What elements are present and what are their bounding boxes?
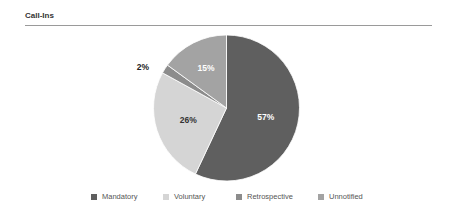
pie-chart: 57%26%2%15% — [0, 0, 450, 214]
legend: Mandatory Voluntary Retrospective Unnoti… — [0, 192, 450, 206]
legend-item-voluntary: Voluntary — [163, 192, 205, 201]
slice-label: 2% — [137, 62, 150, 72]
legend-swatch — [236, 194, 242, 200]
legend-label: Unnotified — [329, 192, 363, 201]
slice-label: 15% — [197, 63, 214, 73]
legend-swatch — [163, 194, 169, 200]
legend-item-unnotified: Unnotified — [318, 192, 363, 201]
legend-label: Voluntary — [174, 192, 205, 201]
legend-swatch — [318, 194, 324, 200]
slice-label: 57% — [257, 112, 274, 122]
slice-label: 26% — [180, 115, 197, 125]
legend-label: Retrospective — [247, 192, 293, 201]
legend-item-mandatory: Mandatory — [91, 192, 137, 201]
legend-item-retrospective: Retrospective — [236, 192, 293, 201]
legend-label: Mandatory — [102, 192, 137, 201]
legend-swatch — [91, 194, 97, 200]
